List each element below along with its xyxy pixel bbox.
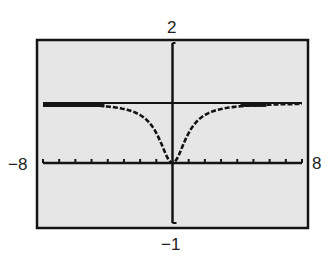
graph-screen — [37, 40, 308, 228]
calculator-graph — [0, 0, 332, 261]
